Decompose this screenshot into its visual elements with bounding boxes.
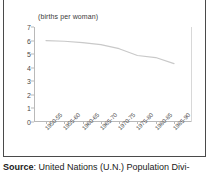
series-polyline bbox=[46, 41, 174, 64]
y-tick-label-1: 1 bbox=[27, 105, 31, 112]
figure-page: (births per woman) 01234567 1950-551955-… bbox=[0, 0, 213, 177]
y-tick-label-5: 5 bbox=[27, 51, 31, 58]
y-tick-label-3: 3 bbox=[27, 78, 31, 85]
source-text: United Nations (U.N.) Population Divi- bbox=[39, 162, 190, 172]
y-tick-label-4: 4 bbox=[27, 64, 31, 71]
y-axis-units-label: (births per woman) bbox=[38, 13, 98, 20]
source-label: Source bbox=[3, 162, 34, 172]
plot-area: 01234567 1950-551955-601960-651965-70197… bbox=[34, 27, 192, 122]
fertility-rate-line bbox=[34, 27, 192, 122]
chart-frame: (births per woman) 01234567 1950-551955-… bbox=[3, 0, 206, 157]
y-tick-label-6: 6 bbox=[27, 37, 31, 44]
y-tick-label-2: 2 bbox=[27, 91, 31, 98]
y-tick-label-0: 0 bbox=[27, 119, 31, 126]
y-tick-label-7: 7 bbox=[27, 24, 31, 31]
source-note: Source: United Nations (U.N.) Population… bbox=[3, 161, 211, 173]
source-separator: : bbox=[34, 162, 37, 172]
